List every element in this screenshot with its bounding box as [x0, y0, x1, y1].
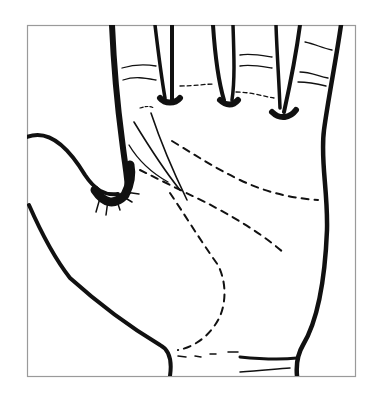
- palm-drawing: [0, 0, 372, 419]
- palm-illustration: [0, 0, 372, 419]
- frame-border: [28, 26, 356, 377]
